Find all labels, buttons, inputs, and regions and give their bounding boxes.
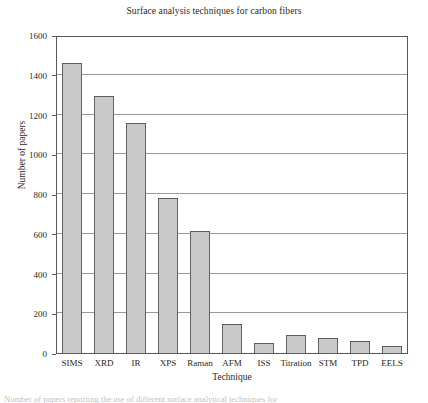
y-axis-tick-label: 600: [34, 229, 53, 241]
y-axis-tick: 200: [34, 308, 57, 320]
bar: [286, 335, 306, 354]
y-axis-tick: 800: [34, 189, 57, 201]
bar: [382, 346, 402, 354]
bar: [158, 198, 178, 354]
y-axis-tick: 1000: [29, 149, 56, 161]
y-axis-tick: 600: [34, 229, 57, 241]
y-axis-tick-label: 800: [34, 189, 53, 201]
x-axis: SIMSXRDIRXPSRamanAFMISSTitrationSTMTPDEE…: [56, 356, 408, 372]
bar: [94, 96, 114, 354]
y-axis-tick-label: 1000: [29, 149, 52, 161]
y-axis-title: Number of papers: [17, 45, 27, 265]
y-axis-tick-label: 200: [34, 308, 53, 320]
x-axis-title: Technique: [56, 372, 408, 382]
y-axis-tick-label: 1600: [29, 30, 52, 42]
bar: [350, 341, 370, 354]
bar: [254, 343, 274, 354]
y-axis-tick: 1200: [29, 110, 56, 122]
y-axis-tick: 1400: [29, 70, 56, 82]
figure: Surface analysis techniques for carbon f…: [0, 0, 428, 403]
bars-layer: [56, 36, 408, 354]
bar: [318, 338, 338, 354]
chart-title: Surface analysis techniques for carbon f…: [0, 6, 428, 16]
x-axis-tick-label: EELS: [370, 356, 414, 370]
bar: [190, 231, 210, 354]
y-axis-tick-label: 400: [34, 269, 53, 281]
y-axis-tick-label: 1200: [29, 110, 52, 122]
bar: [222, 324, 242, 354]
caption-text: Number of papers reporting the use of di…: [0, 394, 428, 403]
y-axis-tick: 400: [34, 269, 57, 281]
y-axis-tick-label: 1400: [29, 70, 52, 82]
bar: [62, 63, 82, 354]
y-axis: 02004006008001000120014001600: [0, 0, 56, 403]
figure-caption-clipped: Number of papers reporting the use of di…: [0, 394, 428, 403]
bar: [126, 123, 146, 354]
y-axis-tick: 1600: [29, 30, 56, 42]
